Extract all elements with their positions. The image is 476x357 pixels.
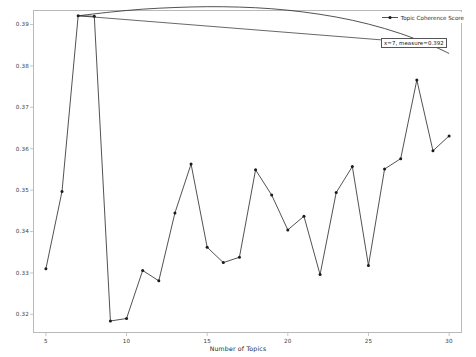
y-tick-label: 0.38 bbox=[3, 63, 29, 69]
y-tick-label: 0.37 bbox=[3, 104, 29, 110]
x-axis-title: Number of Topics bbox=[0, 345, 476, 352]
y-tick-label: 0.32 bbox=[3, 311, 29, 317]
y-tick-label: 0.36 bbox=[3, 146, 29, 152]
x-tick-label: 5 bbox=[36, 338, 56, 344]
chart-figure: 0.320.330.340.350.360.370.380.39 5101520… bbox=[0, 0, 476, 357]
legend-label: Topic Coherence Score bbox=[401, 15, 464, 21]
y-tick-label: 0.34 bbox=[3, 228, 29, 234]
legend-marker-icon bbox=[382, 14, 398, 21]
plot-area-frame bbox=[33, 10, 462, 333]
y-tick-label: 0.35 bbox=[3, 187, 29, 193]
peak-annotation-label: x=7, measure=0.392 bbox=[381, 38, 447, 48]
y-tick-label: 0.39 bbox=[3, 21, 29, 27]
x-tick-label: 30 bbox=[439, 338, 459, 344]
chart-legend[interactable]: Topic Coherence Score bbox=[378, 12, 468, 23]
y-tick-label: 0.33 bbox=[3, 270, 29, 276]
x-tick-label: 10 bbox=[117, 338, 137, 344]
x-tick-label: 15 bbox=[197, 338, 217, 344]
x-tick-label: 25 bbox=[358, 338, 378, 344]
x-tick-label: 20 bbox=[278, 338, 298, 344]
